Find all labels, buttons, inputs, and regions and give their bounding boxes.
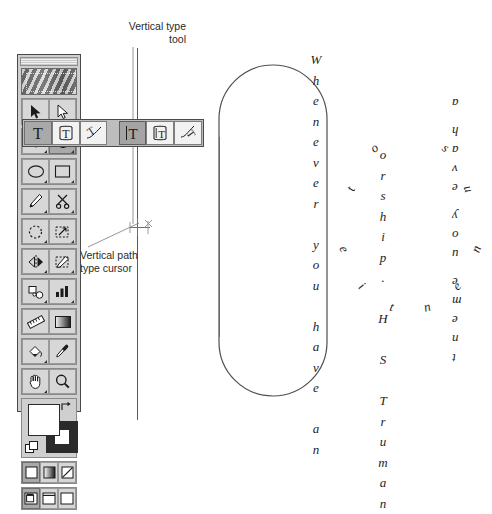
vertical-type-t-icon: T	[123, 124, 141, 142]
standard-screen-icon	[24, 492, 38, 505]
path-type-char: u	[452, 246, 459, 262]
solid-color-icon	[25, 466, 38, 479]
path-type-char: m	[452, 293, 461, 309]
flyout-item-vertical-area-type-tool[interactable]: T	[146, 121, 174, 145]
svg-text:T: T	[85, 124, 97, 138]
vertical-type-char: n	[372, 494, 394, 514]
vertical-type-char: a	[372, 473, 394, 494]
screen-mode-row	[21, 487, 77, 510]
path-type-char: a	[452, 95, 459, 111]
flyout-item-area-type-tool[interactable]: T	[52, 121, 80, 145]
area-type-icon: T	[57, 124, 75, 142]
path-type-char: e	[452, 274, 458, 290]
flyout-item-vertical-path-type-tool[interactable]: T	[174, 121, 202, 145]
flyout-item-path-type-tool[interactable]: T	[80, 121, 108, 145]
paint-mode-gradient[interactable]	[40, 462, 58, 483]
path-type-char: o	[452, 227, 459, 243]
path-type-icon: T	[85, 124, 103, 142]
path-type-char: s	[438, 140, 451, 156]
type-t-icon: T	[30, 124, 46, 142]
full-screen-icon	[60, 492, 74, 505]
screen-mode-full[interactable]	[58, 488, 76, 509]
path-type-char: n	[422, 299, 432, 316]
vertical-path-type-icon: T	[179, 124, 197, 142]
flyout-divider	[107, 121, 118, 145]
vertical-type-char: u	[372, 432, 394, 453]
svg-text:T: T	[129, 126, 138, 142]
path-type-char: y	[452, 208, 458, 224]
path-type-char: n	[467, 244, 484, 256]
path-type-char: t	[388, 299, 395, 315]
type-tool-flyout[interactable]: T T T T T	[22, 119, 204, 147]
gradient-icon	[43, 466, 56, 479]
vertical-area-type-icon: T	[151, 124, 169, 142]
vertical-type-char: m	[372, 453, 394, 474]
path-type-char: t	[342, 184, 358, 193]
screen-mode-full-with-menu[interactable]	[40, 488, 58, 509]
vertical-type-char: n	[305, 440, 327, 461]
svg-text:T: T	[33, 125, 43, 142]
path-type-char: h	[452, 123, 459, 139]
path-type-char: a	[452, 142, 459, 158]
paint-mode-none[interactable]	[58, 462, 76, 483]
path-type-char: u	[460, 183, 477, 195]
path-type-char: t	[452, 350, 456, 366]
flyout-item-type-tool[interactable]: T	[24, 121, 52, 145]
svg-text:T: T	[158, 128, 165, 140]
path-type-char: e	[336, 244, 353, 255]
flyout-item-vertical-type-tool[interactable]: T	[119, 121, 147, 145]
path-type-char: e	[452, 312, 458, 328]
full-screen-menu-icon	[42, 492, 56, 505]
svg-text:T: T	[62, 127, 70, 141]
path-type-char: v	[452, 161, 458, 177]
path-type-char: n	[452, 331, 459, 347]
svg-text:T: T	[185, 128, 198, 141]
screen-mode-standard[interactable]	[22, 488, 40, 509]
paint-mode-color[interactable]	[22, 462, 40, 483]
default-fill-stroke-icon[interactable]	[25, 441, 38, 454]
path-type-char: e	[452, 180, 458, 196]
none-slash-icon	[61, 466, 74, 479]
paint-mode-row	[21, 461, 77, 484]
path-type-char: i	[355, 279, 368, 293]
path-type-char: o	[367, 139, 382, 156]
